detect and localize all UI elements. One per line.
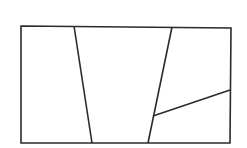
- outer-rectangle: [21, 26, 231, 143]
- partition-line-left: [74, 26, 92, 143]
- partition-diagram: [0, 0, 247, 148]
- partition-line-middle: [148, 27, 172, 143]
- partition-line-right: [153, 90, 230, 116]
